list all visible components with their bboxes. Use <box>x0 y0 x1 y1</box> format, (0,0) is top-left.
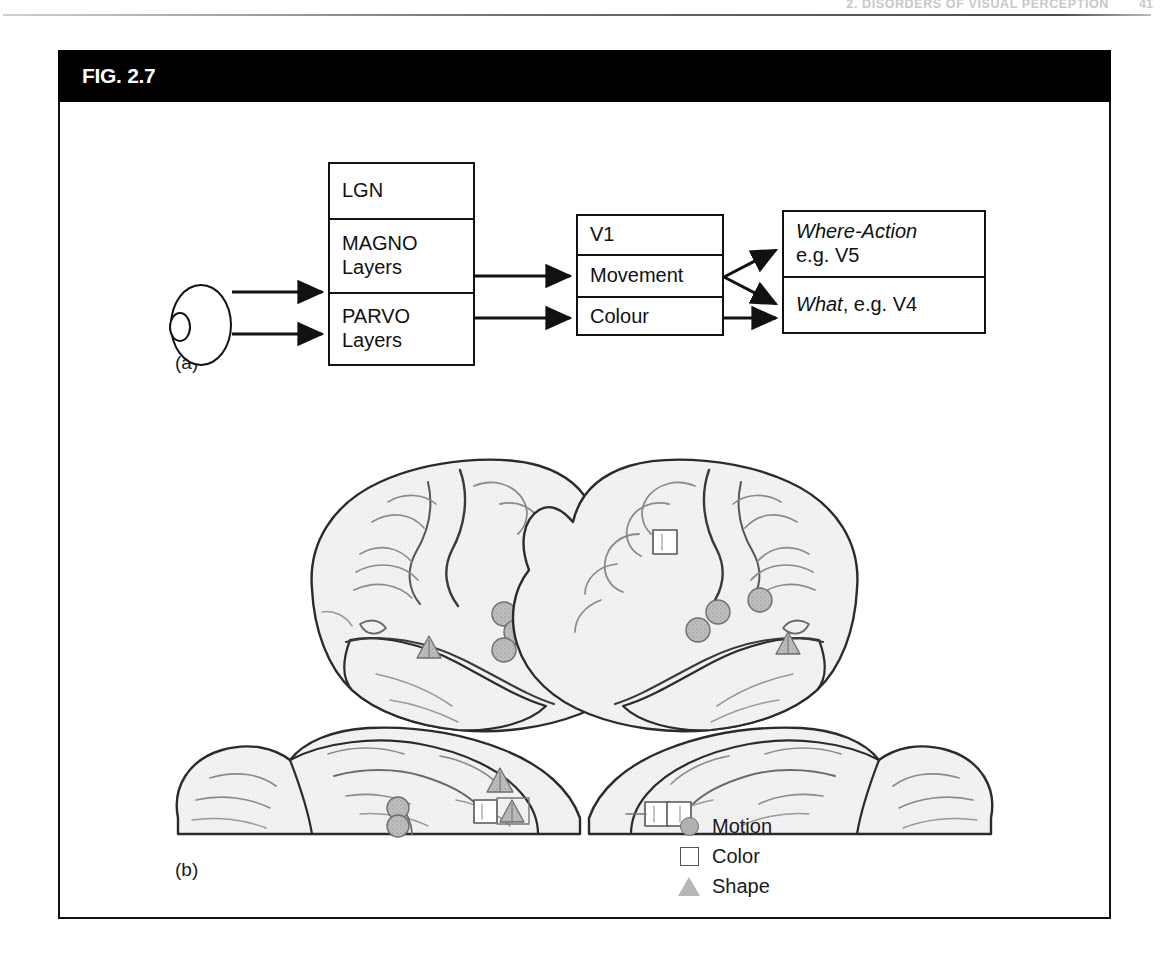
running-head: 2. DISORDERS OF VISUAL PERCEPTION 41 <box>0 0 1161 30</box>
marker-motion-top-right-single <box>748 588 772 612</box>
running-head-title: 2. DISORDERS OF VISUAL PERCEPTION <box>846 0 1109 11</box>
brain-illustration <box>60 404 1109 919</box>
legend-label-color: Color <box>712 845 760 868</box>
figure-frame: FIG. 2.7 (a) LGN MAGNO Layers PARVO Laye… <box>58 50 1111 919</box>
v1-cell-movement: Movement <box>578 256 722 298</box>
brain-top-right <box>513 460 857 732</box>
eye-pupil-icon <box>169 312 191 342</box>
output-cell-where-action: Where-Action e.g. V5 <box>784 212 984 278</box>
what-example: , e.g. V4 <box>843 293 918 315</box>
lgn-cell-magno: MAGNO Layers <box>330 220 473 294</box>
v1-box: V1 Movement Colour <box>576 214 724 336</box>
output-cell-what: What, e.g. V4 <box>784 278 984 332</box>
where-action-label: Where-Action <box>796 220 984 244</box>
legend-label-motion: Motion <box>712 815 772 838</box>
lgn-box: LGN MAGNO Layers PARVO Layers <box>328 162 475 366</box>
output-box: Where-Action e.g. V5 What, e.g. V4 <box>782 210 986 334</box>
marker-color-bottom-right <box>645 802 669 826</box>
marker-motion-cluster-top-left <box>492 602 528 662</box>
marker-shape-top-left <box>417 636 441 658</box>
legend: Motion Color Shape <box>678 814 772 898</box>
marker-motion-bottom-left <box>387 797 409 837</box>
brain-top-left <box>312 460 656 732</box>
marker-color-top-left <box>526 618 550 642</box>
legend-label-shape: Shape <box>712 875 770 898</box>
parvo-label-line1: PARVO <box>342 305 473 329</box>
panel-b-brain-diagram: (b) <box>60 404 1109 919</box>
parvo-label-line2: Layers <box>342 329 473 353</box>
header-divider-rule <box>3 14 1151 16</box>
page-number: 41 <box>1139 0 1153 11</box>
magno-label-line1: MAGNO <box>342 232 473 256</box>
legend-item-color: Color <box>678 844 772 868</box>
panel-a-flow-diagram: (a) LGN MAGNO Layers PARVO Layers V1 <box>60 104 1109 404</box>
panel-b-label: (b) <box>175 859 198 881</box>
v1-cell-colour: Colour <box>578 298 722 336</box>
figure-banner: FIG. 2.7 <box>58 50 1111 102</box>
markers-top-right <box>653 530 800 654</box>
where-action-example: e.g. V5 <box>796 244 984 268</box>
lgn-label-line1: LGN <box>342 179 473 203</box>
lgn-cell-lgn: LGN <box>330 164 473 220</box>
marker-color-top-right <box>653 530 677 554</box>
what-row: What, e.g. V4 <box>796 293 984 317</box>
brain-bottom-right <box>589 728 992 834</box>
motion-symbol-icon <box>678 817 700 836</box>
what-label: What <box>796 293 843 315</box>
legend-item-shape: Shape <box>678 874 772 898</box>
marker-motion-cluster-top-right <box>686 600 730 642</box>
shape-symbol-icon <box>678 877 700 896</box>
figure-number-label: FIG. 2.7 <box>82 64 155 88</box>
lgn-cell-parvo: PARVO Layers <box>330 294 473 364</box>
legend-item-motion: Motion <box>678 814 772 838</box>
marker-shape-top-right <box>776 632 800 654</box>
marker-color-bottom-left <box>474 800 497 823</box>
movement-label: Movement <box>590 264 722 288</box>
colour-label: Colour <box>590 305 722 329</box>
eye-icon <box>170 284 232 366</box>
v1-label: V1 <box>590 223 722 247</box>
v1-cell-v1: V1 <box>578 216 722 256</box>
magno-label-line2: Layers <box>342 256 473 280</box>
color-symbol-icon <box>678 847 700 866</box>
marker-shape-bottom-left-2 <box>500 800 524 822</box>
marker-shape-bottom-left <box>487 768 513 792</box>
brain-bottom-left <box>177 728 580 837</box>
